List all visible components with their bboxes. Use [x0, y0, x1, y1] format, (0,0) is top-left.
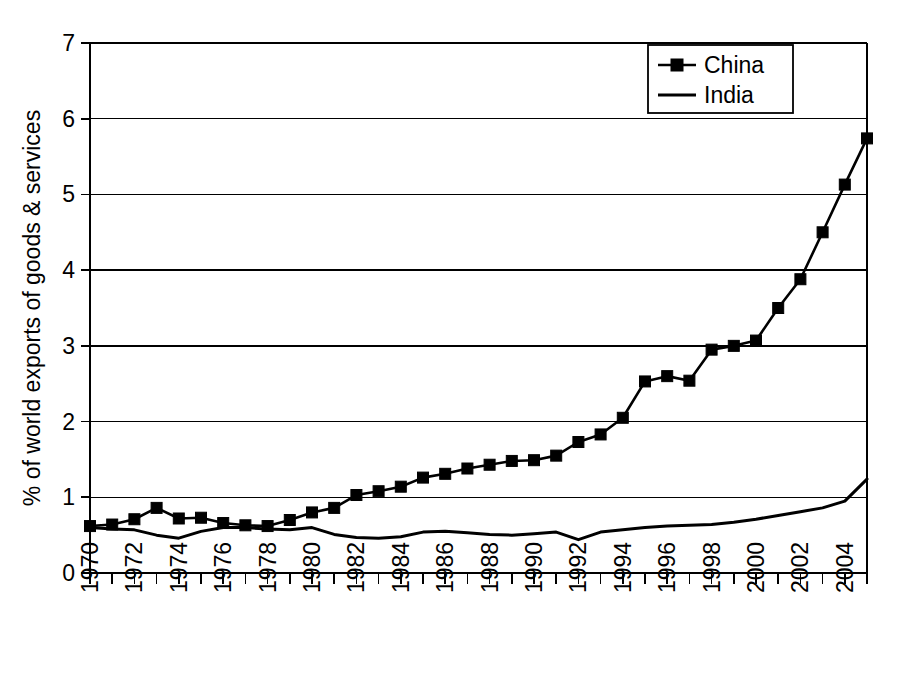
x-tick-label-1988: 1988 — [477, 542, 503, 593]
data-point-china-1996 — [662, 371, 673, 382]
data-point-china-1992 — [573, 437, 584, 448]
data-point-china-1991 — [551, 450, 562, 461]
data-point-china-2003 — [817, 227, 828, 238]
data-point-china-1993 — [595, 429, 606, 440]
x-tick-label-2000: 2000 — [743, 542, 769, 593]
data-point-china-1987 — [462, 463, 473, 474]
data-point-china-1994 — [617, 412, 628, 423]
series-line-china — [90, 138, 867, 526]
y-tick-label-2: 2 — [62, 409, 75, 435]
data-point-china-1973 — [151, 502, 162, 513]
x-tick-label-2004: 2004 — [832, 542, 858, 593]
plot-frame — [90, 43, 867, 573]
data-point-china-1970 — [85, 521, 96, 532]
data-point-china-1999 — [728, 340, 739, 351]
data-point-china-1980 — [307, 507, 318, 518]
data-point-china-1989 — [506, 455, 517, 466]
data-point-china-1975 — [196, 512, 207, 523]
data-point-china-1998 — [706, 344, 717, 355]
x-axis-tick-labels: 1970197219741976197819801982198419861988… — [77, 542, 858, 593]
x-tick-label-1984: 1984 — [388, 542, 414, 593]
y-tick-label-0: 0 — [62, 560, 75, 586]
data-point-china-1985 — [418, 472, 429, 483]
x-tick-label-1970: 1970 — [77, 542, 103, 593]
y-tick-label-3: 3 — [62, 333, 75, 359]
data-point-china-1982 — [351, 490, 362, 501]
data-point-china-1990 — [529, 455, 540, 466]
x-tick-label-1990: 1990 — [521, 542, 547, 593]
chart-legend: ChinaIndia — [648, 45, 793, 113]
x-tick-label-1992: 1992 — [565, 542, 591, 593]
data-point-china-2004 — [839, 179, 850, 190]
data-point-china-2002 — [795, 274, 806, 285]
data-point-china-2005 — [862, 133, 873, 144]
data-point-china-2001 — [773, 303, 784, 314]
x-tick-label-1978: 1978 — [255, 542, 281, 593]
x-tick-label-1998: 1998 — [699, 542, 725, 593]
y-tick-label-7: 7 — [62, 30, 75, 56]
x-tick-label-1982: 1982 — [343, 542, 369, 593]
data-point-china-1986 — [440, 468, 451, 479]
data-point-china-1981 — [329, 502, 340, 513]
x-tick-label-1974: 1974 — [166, 542, 192, 593]
legend-marker-square-china — [671, 59, 683, 71]
y-axis-title-text: % of world exports of goods & services — [19, 110, 45, 506]
y-tick-label-4: 4 — [62, 257, 75, 283]
data-point-china-1979 — [284, 515, 295, 526]
y-tick-label-6: 6 — [62, 106, 75, 132]
x-tick-label-1986: 1986 — [432, 542, 458, 593]
data-point-china-2000 — [751, 335, 762, 346]
y-axis-title: % of world exports of goods & services — [19, 110, 45, 506]
y-axis-ticks — [81, 43, 90, 573]
series-line-india — [90, 479, 867, 540]
data-point-china-1997 — [684, 375, 695, 386]
x-tick-label-1976: 1976 — [210, 542, 236, 593]
line-chart: 01234567 1970197219741976197819801982198… — [0, 0, 902, 673]
data-point-china-1972 — [129, 514, 140, 525]
y-tick-label-1: 1 — [62, 484, 75, 510]
x-tick-label-1994: 1994 — [610, 542, 636, 593]
data-point-china-1984 — [395, 481, 406, 492]
data-point-china-1995 — [640, 376, 651, 387]
y-tick-label-5: 5 — [62, 181, 75, 207]
data-point-china-1974 — [173, 513, 184, 524]
y-axis-tick-labels: 01234567 — [62, 30, 75, 586]
legend-label-india: India — [704, 82, 754, 108]
data-point-china-1983 — [373, 486, 384, 497]
x-tick-label-2002: 2002 — [787, 542, 813, 593]
x-tick-label-1972: 1972 — [121, 542, 147, 593]
x-tick-label-1980: 1980 — [299, 542, 325, 593]
chart-container: 01234567 1970197219741976197819801982198… — [0, 0, 902, 673]
x-tick-label-1996: 1996 — [654, 542, 680, 593]
legend-label-china: China — [704, 52, 764, 78]
data-point-china-1988 — [484, 459, 495, 470]
